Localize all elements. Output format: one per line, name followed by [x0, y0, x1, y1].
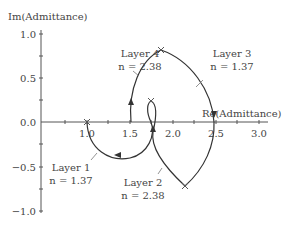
admittance-diagram: Im(Admittance) Re(Admittance) 1.0 0.5 0.…: [0, 0, 283, 229]
layer-1-name: Layer 1: [52, 162, 91, 173]
x-tick-label: 1.0: [79, 128, 95, 139]
layer-3-index: n = 1.37: [210, 61, 253, 72]
layer-4-index: n = 2.38: [118, 61, 161, 72]
layer-1-index: n = 1.37: [49, 175, 92, 186]
y-tick-label: 0.0: [20, 117, 36, 128]
x-tick-label: 2.5: [208, 128, 224, 139]
y-tick-label: 1.0: [20, 29, 36, 40]
layer-4-name: Layer 4: [121, 48, 160, 59]
y-axis-label: Im(Admittance): [8, 11, 88, 22]
x-tick-label: 1.5: [122, 128, 138, 139]
y-tick-label: 0.5: [20, 73, 36, 84]
x-tick-label: 3.0: [251, 128, 267, 139]
x-tick-label: 2.0: [165, 128, 181, 139]
y-tick-label: −1.0: [12, 206, 36, 217]
layer-2-name: Layer 2: [124, 177, 163, 188]
y-tick-label: −0.5: [12, 162, 36, 173]
layer-3-name: Layer 3: [213, 48, 252, 59]
layer-2-index: n = 2.38: [121, 190, 164, 201]
